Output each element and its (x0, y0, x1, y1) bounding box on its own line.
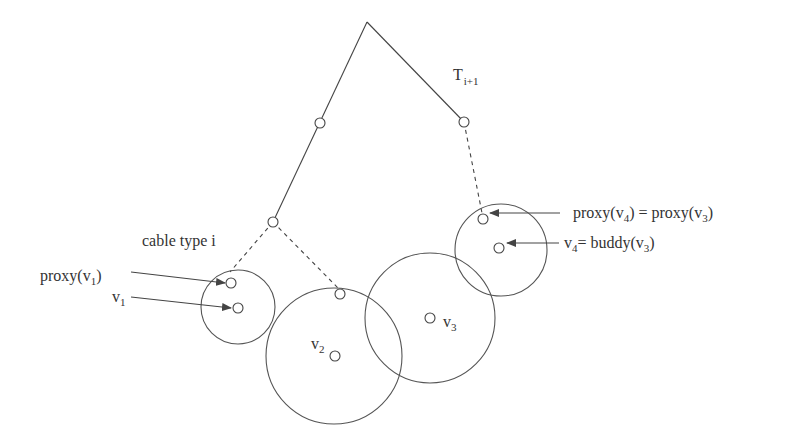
node-v2 (330, 351, 340, 361)
cable-edge-to-proxy-v1 (230, 222, 273, 272)
tree-label: Ti+1 (453, 66, 479, 87)
node-proxy-v1 (226, 278, 236, 288)
arrow-v1 (131, 297, 231, 308)
label-v3: v3 (443, 313, 457, 333)
node-proxy-v2 (335, 289, 345, 299)
tree-edge-right (367, 22, 464, 122)
label-proxy-v4-equals-proxy-v3: proxy(v4) = proxy(v3) (573, 204, 713, 224)
node-proxy-v4 (478, 214, 488, 224)
edge-label-cable-type: cable type i (142, 232, 216, 250)
cluster-circles (201, 204, 547, 424)
node-v1 (233, 303, 243, 313)
label-v2: v2 (311, 335, 325, 355)
cable-edges (230, 122, 482, 289)
label-v4-equals-buddy-v3: v4= buddy(v3) (564, 234, 655, 254)
node-v4 (494, 243, 504, 253)
steiner-node-left (315, 118, 325, 128)
label-v1: v1 (112, 288, 126, 308)
arrow-proxy-v1 (131, 272, 225, 283)
cable-edge-to-proxy-v2 (273, 222, 339, 289)
label-proxy-v1: proxy(v1) (40, 267, 101, 287)
cable-tree-diagram: Ti+1 cable type i proxy(v1) v1 v2 v3 pro… (0, 0, 791, 446)
steiner-node-right (459, 117, 469, 127)
steiner-node-branch (268, 217, 278, 227)
node-v3 (425, 313, 435, 323)
cable-edge-to-proxy-v4 (464, 122, 482, 213)
tree-edges (273, 22, 464, 222)
